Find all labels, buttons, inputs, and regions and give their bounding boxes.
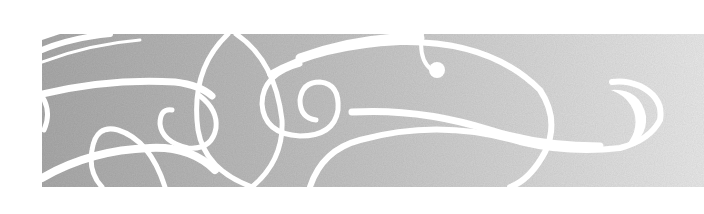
decorative-banner (0, 0, 704, 214)
swirl-dot (429, 62, 445, 78)
swirl-banner-graphic (0, 0, 704, 214)
